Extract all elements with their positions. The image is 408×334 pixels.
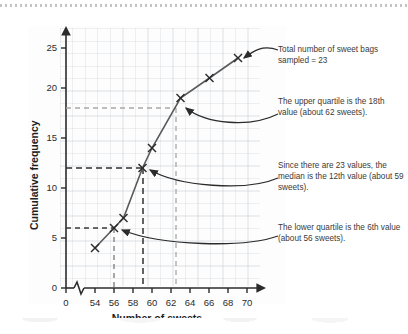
data-point-54-4 — [91, 244, 99, 252]
data-point-57-7 — [120, 214, 128, 222]
screenshot-root: 0 5 10 15 20 25 Cumulative frequency 0 — [0, 0, 408, 334]
leader-median — [150, 170, 278, 186]
y-tick-0: 0 — [52, 282, 57, 293]
x-tick-54: 54 — [90, 297, 101, 308]
x-tick-70: 70 — [242, 297, 253, 308]
leader-lower-quartile — [122, 230, 278, 244]
x-tick-58: 58 — [128, 297, 139, 308]
y-tick-10: 10 — [46, 182, 57, 193]
y-axis: 0 5 10 15 20 25 Cumulative frequency — [28, 34, 66, 293]
data-point-69-23 — [234, 54, 242, 62]
data-point-63-19 — [177, 94, 185, 102]
leader-upper-quartile — [186, 108, 278, 123]
callout-median: Since there are 23 values, the median is… — [278, 160, 404, 193]
y-tick-15: 15 — [46, 132, 57, 143]
x-tick-66: 66 — [204, 297, 215, 308]
x-tick-62: 62 — [166, 297, 177, 308]
lower-quartile-guide — [66, 228, 114, 288]
data-point-60-14 — [148, 144, 156, 152]
y-tick-20: 20 — [46, 82, 57, 93]
x-tick-68: 68 — [223, 297, 234, 308]
leader-total-sampled — [244, 48, 278, 58]
y-tick-5: 5 — [52, 232, 57, 243]
x-tick-0: 0 — [63, 297, 68, 308]
x-tick-60: 60 — [147, 297, 158, 308]
data-point-66-21 — [206, 74, 214, 82]
x-axis-break-symbol — [74, 282, 84, 294]
x-tick-56: 56 — [109, 297, 120, 308]
callout-total-sampled: Total number of sweet bags sampled = 23 — [278, 44, 404, 66]
torn-paper-edge-bottom — [0, 318, 408, 334]
y-axis-title: Cumulative frequency — [28, 120, 40, 230]
callout-lower-quartile: The lower quartile is the 6th value (abo… — [278, 222, 404, 244]
x-tick-64: 64 — [185, 297, 196, 308]
y-tick-25: 25 — [46, 42, 57, 53]
cumulative-frequency-curve — [95, 58, 238, 248]
data-point-markers — [91, 54, 242, 252]
callout-upper-quartile: The upper quartile is the 18th value (ab… — [278, 96, 404, 118]
